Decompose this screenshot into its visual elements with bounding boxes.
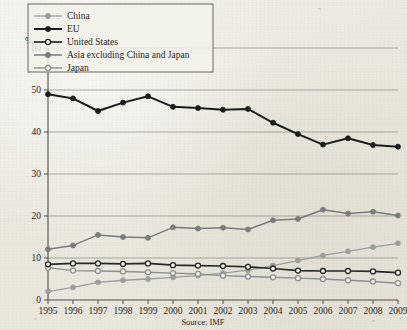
- data-point: [371, 143, 376, 148]
- data-point: [321, 142, 326, 147]
- legend-marker-swatch: [45, 65, 50, 70]
- legend-marker-swatch: [45, 26, 50, 31]
- data-point: [171, 263, 176, 268]
- y-axis-tick-label: 20: [32, 211, 42, 221]
- legend-box: [28, 4, 213, 72]
- data-point: [371, 245, 376, 250]
- data-point: [96, 261, 101, 266]
- data-point: [71, 268, 76, 273]
- data-point: [371, 279, 376, 284]
- data-point: [171, 225, 176, 230]
- series-eu: [46, 92, 401, 150]
- data-point: [346, 278, 351, 283]
- data-point: [96, 109, 101, 114]
- data-point: [221, 225, 226, 230]
- data-point: [96, 280, 101, 285]
- data-point: [71, 261, 76, 266]
- data-point: [46, 262, 51, 267]
- data-point: [71, 285, 76, 290]
- data-point: [271, 218, 276, 223]
- data-point: [321, 269, 326, 274]
- data-series-layer: [46, 92, 401, 294]
- data-point: [396, 270, 401, 275]
- legend-item-label: Japan: [67, 63, 89, 73]
- data-point: [396, 241, 401, 246]
- data-point: [246, 106, 251, 111]
- x-axis-tick-label: 2007: [339, 306, 358, 316]
- data-point: [121, 261, 126, 266]
- data-point: [146, 261, 151, 266]
- data-point: [346, 211, 351, 216]
- data-point: [296, 216, 301, 221]
- x-axis-tick-label: 1999: [139, 306, 158, 316]
- line-chart: 0102030405060 19951996199719981999200020…: [0, 0, 407, 330]
- data-point: [196, 226, 201, 231]
- data-point: [146, 270, 151, 275]
- data-point: [271, 120, 276, 125]
- data-point: [121, 269, 126, 274]
- data-point: [271, 275, 276, 280]
- data-point: [246, 227, 251, 232]
- data-point: [146, 235, 151, 240]
- data-point: [346, 249, 351, 254]
- legend: ChinaEUUnited StatesAsia excluding China…: [28, 4, 213, 73]
- data-point: [96, 232, 101, 237]
- data-point: [121, 100, 126, 105]
- data-point: [346, 136, 351, 141]
- legend-item-label: United States: [67, 37, 118, 47]
- data-point: [396, 281, 401, 286]
- y-axis-tick-label: 0: [36, 295, 41, 305]
- data-point: [46, 289, 51, 294]
- x-axis-tick-label: 1996: [64, 306, 83, 316]
- legend-item-label: EU: [67, 24, 80, 34]
- x-axis-tick-label: 2002: [214, 306, 233, 316]
- x-axis-ticks: 1995199619971998199920002001200220032004…: [39, 300, 407, 316]
- series-asia-excluding-china-and-japan: [46, 207, 401, 251]
- data-point: [146, 94, 151, 99]
- source-caption: Source: IMF: [181, 317, 224, 327]
- data-point: [396, 144, 401, 149]
- y-axis-tick-label: 50: [32, 85, 42, 95]
- data-point: [396, 213, 401, 218]
- y-axis-tick-label: 30: [32, 169, 42, 179]
- y-axis-tick-label: 40: [32, 127, 42, 137]
- x-axis-tick-label: 2003: [239, 306, 258, 316]
- data-point: [296, 132, 301, 137]
- data-point: [246, 274, 251, 279]
- data-point: [146, 277, 151, 282]
- data-point: [121, 278, 126, 283]
- data-point: [196, 106, 201, 111]
- x-axis-tick-label: 2008: [364, 306, 383, 316]
- data-point: [321, 253, 326, 258]
- data-point: [196, 271, 201, 276]
- x-axis-tick-label: 1998: [114, 306, 133, 316]
- data-point: [371, 269, 376, 274]
- data-point: [371, 209, 376, 214]
- data-point: [321, 207, 326, 212]
- data-point: [171, 104, 176, 109]
- data-point: [96, 269, 101, 274]
- data-point: [296, 276, 301, 281]
- y-axis-tick-label: 10: [32, 253, 42, 263]
- data-point: [321, 277, 326, 282]
- data-point: [296, 258, 301, 263]
- x-axis-tick-label: 1995: [39, 306, 58, 316]
- legend-marker-swatch: [45, 52, 50, 57]
- data-point: [71, 96, 76, 101]
- data-point: [296, 268, 301, 273]
- data-point: [246, 264, 251, 269]
- data-point: [171, 271, 176, 276]
- legend-marker-swatch: [45, 39, 50, 44]
- data-point: [221, 107, 226, 112]
- x-axis-tick-label: 2009: [389, 306, 407, 316]
- data-point: [221, 273, 226, 278]
- x-axis-tick-label: 2000: [164, 306, 183, 316]
- x-axis-tick-label: 2005: [289, 306, 308, 316]
- x-axis-tick-label: 2004: [264, 306, 283, 316]
- data-point: [221, 263, 226, 268]
- x-axis-tick-label: 2006: [314, 306, 333, 316]
- legend-item-label: Asia excluding China and Japan: [67, 50, 190, 60]
- legend-marker-swatch: [45, 13, 50, 18]
- data-point: [46, 247, 51, 252]
- data-point: [121, 235, 126, 240]
